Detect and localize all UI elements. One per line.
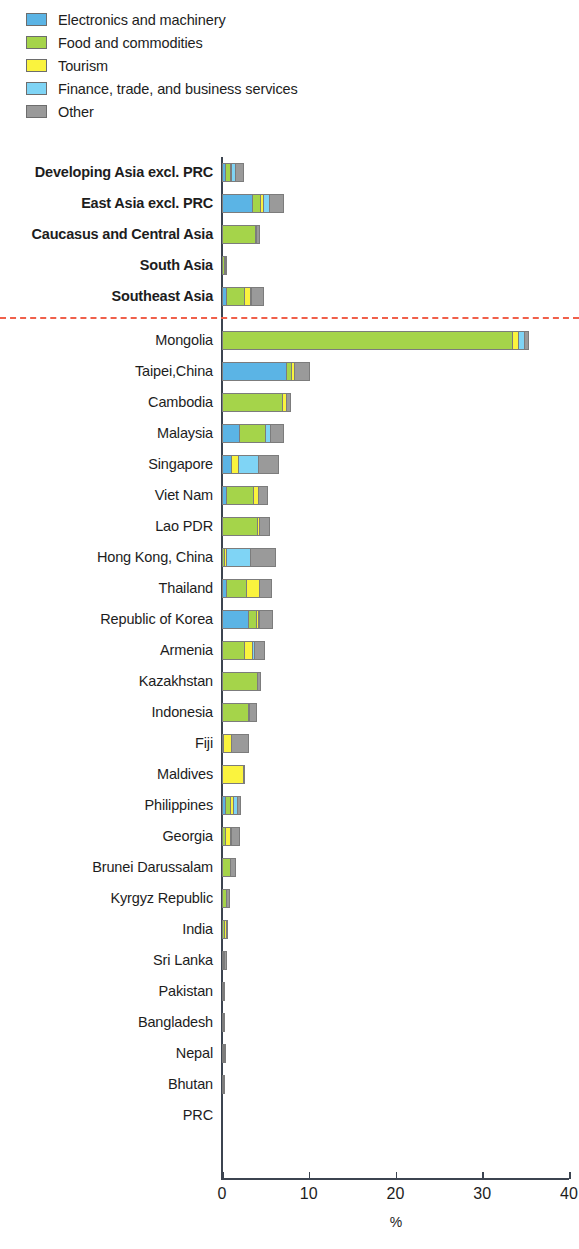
category-label: South Asia <box>140 250 213 281</box>
stacked-bar <box>222 982 225 1001</box>
category-label: Malaysia <box>157 418 213 449</box>
category-label: Taipei,China <box>135 356 213 387</box>
category-label: Nepal <box>176 1038 213 1069</box>
bar-segment-other <box>257 225 260 244</box>
stacked-bar <box>222 287 264 306</box>
legend-item-label: Food and commodities <box>58 35 203 51</box>
legend-item-label: Tourism <box>58 58 108 74</box>
bar-segment-food <box>222 703 249 722</box>
legend-item-label: Other <box>58 104 94 120</box>
category-label: Thailand <box>159 573 213 604</box>
country-row: Mongolia <box>0 325 579 356</box>
bar-segment-tourism <box>232 455 240 474</box>
bar-segment-other <box>236 163 244 182</box>
bar-segment-other <box>225 951 227 970</box>
legend-item-food: Food and commodities <box>26 31 546 54</box>
bar-segment-electronics <box>222 194 253 213</box>
category-label: Cambodia <box>148 387 213 418</box>
country-row: Hong Kong, China <box>0 542 579 573</box>
country-row: Sri Lanka <box>0 945 579 976</box>
bar-segment-other <box>244 765 245 784</box>
country-row: Nepal <box>0 1038 579 1069</box>
bar-segment-food <box>222 517 258 536</box>
bar-segment-other <box>250 703 257 722</box>
legend-swatch-icon-other <box>26 105 47 118</box>
category-label: Hong Kong, China <box>97 542 213 573</box>
stacked-bar <box>222 703 257 722</box>
country-row: Kyrgyz Republic <box>0 883 579 914</box>
country-row: Armenia <box>0 635 579 666</box>
region-country-separator <box>0 317 579 319</box>
stacked-bar <box>222 424 284 443</box>
bar-segment-food <box>222 331 513 350</box>
country-row: Lao PDR <box>0 511 579 542</box>
x-axis-tick <box>482 1172 484 1179</box>
bar-segment-other <box>225 1044 226 1063</box>
legend-swatch-icon-food <box>26 36 47 49</box>
stacked-bar <box>222 486 268 505</box>
bar-segment-other <box>227 920 229 939</box>
x-axis-tick <box>396 1172 398 1179</box>
bar-segment-other <box>271 424 283 443</box>
bar-segment-food <box>227 579 247 598</box>
legend-swatch-icon-electronics <box>26 13 47 26</box>
country-row: Bhutan <box>0 1069 579 1100</box>
stacked-bar <box>222 1075 225 1094</box>
chart-plot-area: Developing Asia excl. PRCEast Asia excl.… <box>0 155 579 1195</box>
country-row: Brunei Darussalam <box>0 852 579 883</box>
bar-segment-other <box>255 641 265 660</box>
bar-segment-other <box>224 1075 225 1094</box>
bar-segment-finance <box>227 548 251 567</box>
bar-segment-other <box>259 455 279 474</box>
category-label: Indonesia <box>151 697 213 728</box>
x-axis-tick-label: 0 <box>218 1185 227 1203</box>
bar-segment-other <box>238 796 241 815</box>
country-row: Singapore <box>0 449 579 480</box>
bar-segment-other <box>224 1013 225 1032</box>
country-row: Bangladesh <box>0 1007 579 1038</box>
country-row: PRC <box>0 1100 579 1131</box>
bar-segment-food <box>222 672 258 691</box>
country-row: Indonesia <box>0 697 579 728</box>
x-axis-tick-label: 30 <box>473 1185 491 1203</box>
bar-segment-other <box>260 579 272 598</box>
stacked-bar <box>222 858 236 877</box>
x-axis-tick <box>222 1172 224 1179</box>
x-axis-tick-label: 20 <box>387 1185 405 1203</box>
country-row: Pakistan <box>0 976 579 1007</box>
category-label: Singapore <box>148 449 213 480</box>
bar-segment-food <box>253 194 261 213</box>
country-row: Kazakhstan <box>0 666 579 697</box>
country-row: Malaysia <box>0 418 579 449</box>
bar-segment-food <box>227 486 254 505</box>
category-label: Bangladesh <box>138 1007 213 1038</box>
bar-segment-electronics <box>222 424 240 443</box>
bar-segment-other <box>525 331 529 350</box>
region-row: Southeast Asia <box>0 281 579 312</box>
bar-segment-food <box>222 641 245 660</box>
stacked-bar <box>222 548 276 567</box>
category-label: Lao PDR <box>155 511 213 542</box>
category-label: India <box>182 914 213 945</box>
x-axis-tick <box>309 1172 311 1179</box>
bar-segment-tourism <box>247 579 260 598</box>
category-label: Southeast Asia <box>112 281 213 312</box>
country-row: India <box>0 914 579 945</box>
bar-segment-other <box>259 486 268 505</box>
stacked-bar <box>222 517 270 536</box>
bar-segment-food <box>222 225 256 244</box>
bar-segment-electronics <box>222 455 232 474</box>
legend-swatch-icon-finance <box>26 82 47 95</box>
bar-segment-other <box>224 982 225 1001</box>
category-label: Maldives <box>157 759 213 790</box>
category-label: Mongolia <box>155 325 213 356</box>
bar-segment-other <box>232 734 249 753</box>
bar-segment-other <box>231 858 236 877</box>
stacked-bar <box>222 641 265 660</box>
category-label: Developing Asia excl. PRC <box>35 157 213 188</box>
country-row: Philippines <box>0 790 579 821</box>
country-row: Georgia <box>0 821 579 852</box>
category-label: Republic of Korea <box>100 604 213 635</box>
bar-segment-tourism <box>245 641 253 660</box>
region-row: Developing Asia excl. PRC <box>0 157 579 188</box>
